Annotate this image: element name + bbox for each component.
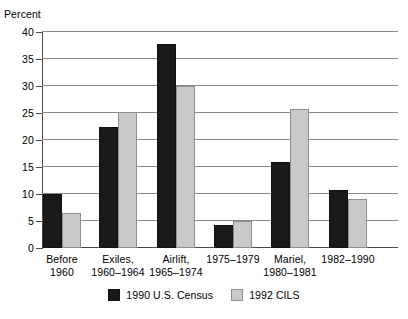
y-tick-label-35: 35 [0,54,34,64]
bar-group [271,32,309,248]
y-tick-label-5: 5 [0,216,34,226]
y-tick-label-20: 20 [0,135,34,145]
y-axis-title: Percent [4,8,41,20]
plot-area [42,32,398,248]
bar-chart: Percent 0510152025303540 Before1960Exile… [0,0,408,319]
bar-group [157,32,195,248]
y-tick-label-10: 10 [0,189,34,199]
bar-group [99,32,137,248]
legend-label: 1990 U.S. Census [126,289,213,301]
bar [118,112,137,248]
legend-label: 1992 CILS [249,289,300,301]
bar [271,162,290,248]
bar [62,213,81,248]
y-tick-label-15: 15 [0,162,34,172]
x-tick-label-line: 1980–1981 [245,266,335,279]
y-tick-label-40: 40 [0,27,34,37]
bar [233,221,252,248]
x-tick-label-line: 1965–1974 [131,266,221,279]
y-tick-label-0: 0 [0,243,34,253]
bar-group [43,32,81,248]
bar-group [329,32,367,248]
legend-item: 1990 U.S. Census [108,289,213,301]
x-tick-label-line: 1982–1990 [303,253,393,266]
bar [214,225,233,248]
bar [99,127,118,249]
bar [176,86,195,248]
y-tick-label-25: 25 [0,108,34,118]
bar [329,190,348,248]
legend-item: 1992 CILS [231,289,300,301]
chart-legend: 1990 U.S. Census1992 CILS [0,289,408,301]
bar [157,44,176,248]
bar [348,199,367,248]
y-tick-label-30: 30 [0,81,34,91]
y-tick-0 [36,248,42,249]
black-square-swatch [108,289,120,301]
gray-square-swatch [231,289,243,301]
bar [43,194,62,248]
bar-group [214,32,252,248]
x-tick-label: 1982–1990 [303,253,393,266]
bar [290,109,309,248]
